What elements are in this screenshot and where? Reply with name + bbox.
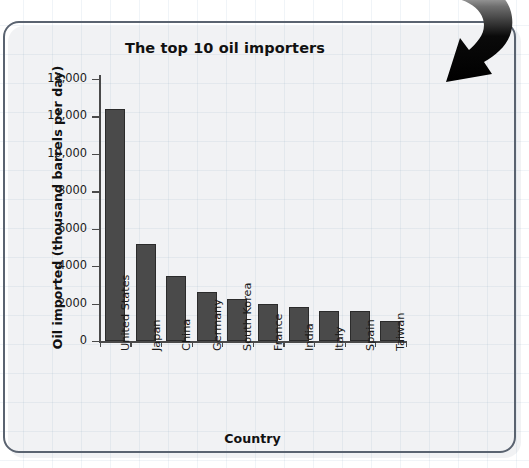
y-axis-tick: 0 [92,341,99,342]
x-axis-tick-label: Italy [333,326,346,351]
y-axis-tick-label: 2000 [58,296,87,310]
x-axis-tick-label: Taiwan [394,313,407,351]
y-axis-tick: 4000 [92,266,99,267]
x-axis-tick [100,341,101,347]
y-axis-tick: 8000 [92,191,99,192]
chart-page: The top 10 oil importers Oil imported (t… [0,0,529,468]
chart-title: The top 10 oil importers [60,40,390,56]
y-axis-tick: 10,000 [92,154,99,155]
y-axis-tick-label: 0 [80,333,87,347]
x-axis-tick-label: United States [119,275,132,352]
y-axis-tick-label: 14,000 [47,71,87,85]
bar-chart: The top 10 oil importers Oil imported (t… [0,0,529,468]
y-axis-tick-label: 8000 [58,183,87,197]
plot-area: 14,00012,00010,00080006000400020000 Unit… [99,79,461,341]
y-axis-tick: 14,000 [92,79,99,80]
x-axis-title: Country [99,431,406,446]
x-axis-tick-label: Germany [211,299,224,351]
bars-layer [99,79,461,341]
x-axis-tick-label: India [303,323,316,351]
x-axis-tick-label: South Korea [241,283,254,351]
x-axis-tick-label: Japan [150,319,163,351]
y-axis-tick-label: 4000 [58,258,87,272]
x-axis-tick-label: Spain [364,319,377,351]
y-axis-tick-label: 6000 [58,221,87,235]
y-axis-tick: 12,000 [92,116,99,117]
y-axis-tick-label: 10,000 [47,146,87,160]
y-axis-tick: 6000 [92,229,99,230]
x-axis-tick-label: China [180,319,193,351]
x-axis-tick-label: France [272,313,285,351]
y-axis-tick: 2000 [92,304,99,305]
y-axis-tick-label: 12,000 [47,108,87,122]
